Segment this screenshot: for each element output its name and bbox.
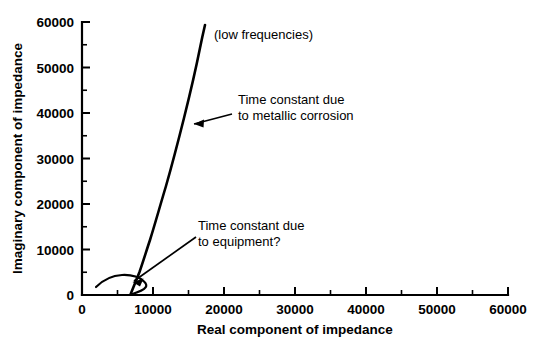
x-tick-label-2: 20000 bbox=[205, 302, 243, 317]
y-tick-label-4: 40000 bbox=[36, 106, 74, 121]
x-tick-label-5: 50000 bbox=[418, 302, 456, 317]
annotation-equipment-line-2: to equipment? bbox=[198, 234, 280, 249]
annotation-low-frequencies: (low frequencies) bbox=[214, 27, 313, 42]
y-tick-label-3: 30000 bbox=[36, 152, 74, 167]
x-tick-label-6: 60000 bbox=[489, 302, 527, 317]
x-tick-label-1: 10000 bbox=[134, 302, 172, 317]
y-axis-title: Imaginary component of impedance bbox=[10, 42, 25, 274]
annotation-corrosion-line-2: to metallic corrosion bbox=[238, 108, 354, 123]
annotation-corrosion-line-1: Time constant due bbox=[238, 92, 344, 107]
x-tick-label-4: 40000 bbox=[347, 302, 385, 317]
y-tick-label-5: 50000 bbox=[36, 61, 74, 76]
y-tick-label-0: 0 bbox=[66, 288, 74, 303]
y-tick-label-2: 20000 bbox=[36, 197, 74, 212]
y-tick-label-6: 60000 bbox=[36, 15, 74, 30]
x-tick-label-0: 0 bbox=[78, 302, 86, 317]
x-axis-title: Real component of impedance bbox=[197, 322, 393, 337]
y-tick-label-1: 10000 bbox=[36, 243, 74, 258]
nyquist-chart-svg: 0 10000 20000 30000 40000 50000 60000 0 … bbox=[0, 0, 544, 360]
x-tick-label-3: 30000 bbox=[276, 302, 314, 317]
annotation-equipment-line-1: Time constant due bbox=[198, 218, 304, 233]
impedance-nyquist-figure: 0 10000 20000 30000 40000 50000 60000 0 … bbox=[0, 0, 544, 360]
